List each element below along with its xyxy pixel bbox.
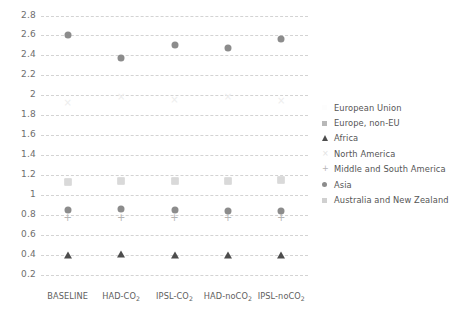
- data-point: [171, 177, 178, 184]
- data-point: [64, 206, 71, 213]
- gridline-0.6: [41, 235, 308, 236]
- gridline-1.2: [41, 175, 308, 176]
- data-point: [224, 45, 231, 52]
- gridline-0.2: [41, 275, 308, 276]
- gridline-1.8: [41, 115, 308, 116]
- data-point: [224, 207, 231, 214]
- circle-icon: [322, 179, 334, 191]
- legend-item-label: Africa: [334, 133, 358, 143]
- legend-item[interactable]: European Union: [322, 100, 454, 115]
- legend-item-label: Europe, non-EU: [334, 118, 400, 128]
- legend-item[interactable]: Europe, non-EU: [322, 115, 454, 130]
- y-tick-label-1.2: 1.2: [2, 169, 36, 179]
- y-tick-label-0.2: 0.2: [2, 269, 36, 279]
- legend-item[interactable]: +Middle and South America: [322, 162, 454, 177]
- data-point: [64, 178, 71, 185]
- blank-icon: [322, 102, 334, 114]
- gridline-1.4: [41, 155, 308, 156]
- y-tick-label-2.6: 2.6: [2, 29, 36, 39]
- y-tick-label-1.8: 1.8: [2, 109, 36, 119]
- data-point: +: [170, 213, 180, 220]
- data-point: +: [63, 213, 73, 220]
- data-point: [118, 55, 125, 62]
- data-point: ×: [63, 99, 73, 106]
- data-point: +: [116, 213, 126, 220]
- square-icon: [322, 194, 334, 206]
- chart-legend: European UnionEurope, non-EUAfrica×North…: [322, 100, 454, 208]
- legend-item[interactable]: Australia and New Zealand: [322, 192, 454, 207]
- data-point: [224, 177, 231, 184]
- x-icon: ×: [322, 148, 334, 160]
- y-tick-label-0.4: 0.4: [2, 249, 36, 259]
- x-tick-label-IPSL-noCO2: IPSL-noCO2: [241, 291, 321, 301]
- data-point: [278, 36, 285, 43]
- data-point: [118, 205, 125, 212]
- y-tick-label-0.8: 0.8: [2, 209, 36, 219]
- legend-item[interactable]: Africa: [322, 131, 454, 146]
- legend-item-label: Australia and New Zealand: [334, 195, 449, 205]
- y-tick-label-0.6: 0.6: [2, 229, 36, 239]
- data-point: ×: [116, 93, 126, 100]
- y-tick-label-2: 2: [2, 89, 36, 99]
- legend-item-label: European Union: [334, 103, 402, 113]
- data-point: [171, 206, 178, 213]
- gridline-2.6: [41, 35, 308, 36]
- gridline-1: [41, 195, 308, 196]
- legend-item[interactable]: ×North America: [322, 146, 454, 161]
- gridline-1.6: [41, 135, 308, 136]
- data-point: [64, 32, 71, 39]
- legend-item-label: Middle and South America: [334, 164, 446, 174]
- y-tick-label-1.6: 1.6: [2, 129, 36, 139]
- y-tick-label-2.4: 2.4: [2, 49, 36, 59]
- y-tick-label-1: 1: [2, 189, 36, 199]
- data-point: [118, 177, 125, 184]
- gridline-2.8: [41, 16, 308, 17]
- gridline-2.4: [41, 55, 308, 56]
- data-point: +: [276, 213, 286, 220]
- gridline-2.2: [41, 75, 308, 76]
- data-point: ×: [223, 93, 233, 100]
- y-tick-label-1.4: 1.4: [2, 149, 36, 159]
- data-point: [278, 176, 285, 183]
- triangle-icon: [322, 132, 334, 144]
- y-tick-label-2.8: 2.8: [2, 10, 36, 20]
- data-point: [278, 207, 285, 214]
- data-point: +: [223, 213, 233, 220]
- data-point: [64, 251, 72, 258]
- y-tick-label-2.2: 2.2: [2, 69, 36, 79]
- data-point: [277, 251, 285, 258]
- legend-item[interactable]: Asia: [322, 177, 454, 192]
- data-point: ×: [276, 97, 286, 104]
- data-point: [117, 250, 125, 257]
- data-point: [224, 251, 232, 258]
- data-point: [171, 42, 178, 49]
- plus-icon: +: [322, 163, 334, 175]
- data-point: ×: [170, 96, 180, 103]
- legend-item-label: North America: [334, 149, 395, 159]
- chart-root: 0.20.40.60.811.21.41.61.822.22.42.62.8 ×…: [0, 0, 455, 327]
- square-icon: [322, 117, 334, 129]
- data-point: [171, 251, 179, 258]
- legend-item-label: Asia: [334, 180, 352, 190]
